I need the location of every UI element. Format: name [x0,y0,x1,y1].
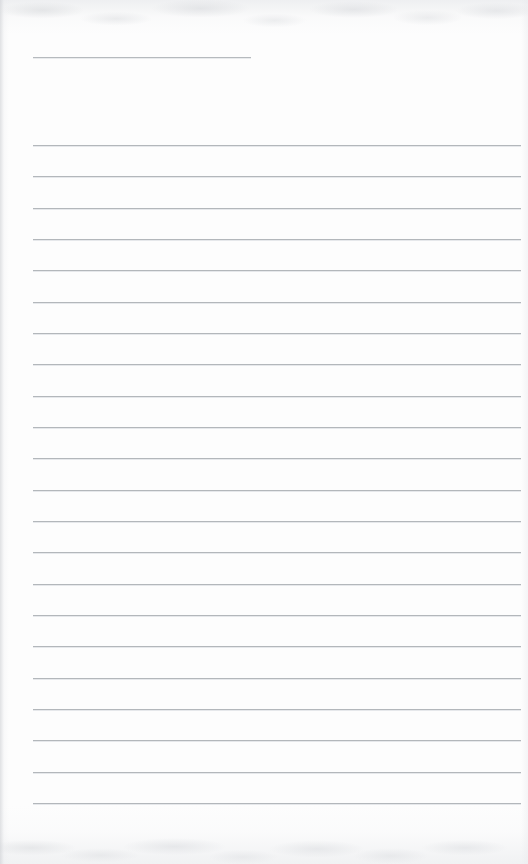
ruled-line[interactable] [33,145,521,146]
ruled-line[interactable] [33,396,521,397]
ruled-line[interactable] [33,772,521,773]
ruled-line[interactable] [33,364,521,365]
scanned-page [0,0,528,864]
header-rule[interactable] [33,57,251,58]
ruled-line[interactable] [33,709,521,710]
ruled-line[interactable] [33,552,521,553]
ruled-line[interactable] [33,176,521,177]
ruled-line[interactable] [33,208,521,209]
ruled-line[interactable] [33,740,521,741]
ruled-line[interactable] [33,803,521,804]
ruled-line[interactable] [33,646,521,647]
writing-area[interactable] [0,0,528,864]
ruled-line[interactable] [33,302,521,303]
ruled-line[interactable] [33,584,521,585]
ruled-line[interactable] [33,239,521,240]
ruled-line[interactable] [33,270,521,271]
ruled-line[interactable] [33,521,521,522]
ruled-line[interactable] [33,490,521,491]
ruled-line[interactable] [33,458,521,459]
ruled-line[interactable] [33,427,521,428]
ruled-line[interactable] [33,678,521,679]
ruled-line[interactable] [33,333,521,334]
ruled-line[interactable] [33,615,521,616]
